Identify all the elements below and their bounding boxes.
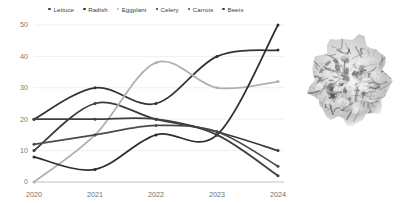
chart-svg: 0102030405020202021202220232024 xyxy=(0,16,292,203)
data-point-marker xyxy=(94,102,97,105)
slide-root: LettuceRadishEggplantCeleryCarrotsBeets … xyxy=(0,0,405,203)
legend-marker-icon xyxy=(156,8,159,11)
legend-item-radish[interactable]: Radish xyxy=(83,6,108,13)
x-axis-tick-label: 2023 xyxy=(209,190,225,199)
legend-label: Celery xyxy=(161,6,179,13)
x-axis-tick-label: 2024 xyxy=(270,190,286,199)
legend-label: Lettuce xyxy=(53,6,74,13)
legend-item-beets[interactable]: Beets xyxy=(222,6,243,13)
data-point-marker xyxy=(277,149,280,152)
data-point-marker xyxy=(277,174,280,177)
legend-marker-icon xyxy=(222,8,225,11)
chart-plot-area: 0102030405020202021202220232024 xyxy=(0,16,292,203)
series-line xyxy=(34,61,278,182)
line-chart: LettuceRadishEggplantCeleryCarrotsBeets … xyxy=(0,0,292,203)
data-point-marker xyxy=(216,130,219,133)
series-carrots xyxy=(33,124,280,168)
lettuce-photo xyxy=(300,22,400,140)
data-point-marker xyxy=(33,181,36,184)
x-axis-tick-label: 2022 xyxy=(148,190,164,199)
y-axis-tick-label: 40 xyxy=(20,52,28,61)
legend-label: Carrots xyxy=(193,6,214,13)
legend-label: Radish xyxy=(88,6,108,13)
y-axis-tick-label: 20 xyxy=(20,115,28,124)
data-point-marker xyxy=(155,133,158,136)
data-point-marker xyxy=(155,102,158,105)
data-point-marker xyxy=(94,86,97,89)
data-point-marker xyxy=(155,118,158,121)
legend-item-carrots[interactable]: Carrots xyxy=(188,6,214,13)
data-point-marker xyxy=(33,149,36,152)
series-line xyxy=(34,125,278,166)
legend-marker-icon xyxy=(83,8,86,11)
photo-panel xyxy=(292,0,405,203)
data-point-marker xyxy=(33,155,36,158)
legend-marker-icon xyxy=(188,8,191,11)
data-point-marker xyxy=(216,133,219,136)
data-point-marker xyxy=(277,165,280,168)
y-axis-tick-label: 30 xyxy=(20,83,28,92)
legend-item-celery[interactable]: Celery xyxy=(156,6,179,13)
x-axis-tick-label: 2021 xyxy=(87,190,103,199)
data-point-marker xyxy=(33,118,36,121)
y-axis-tick-label: 10 xyxy=(20,146,28,155)
legend-marker-icon xyxy=(117,8,120,11)
data-point-marker xyxy=(277,49,280,52)
series-line xyxy=(34,50,278,119)
legend-item-eggplant[interactable]: Eggplant xyxy=(117,6,147,13)
data-point-marker xyxy=(216,86,219,89)
data-point-marker xyxy=(94,168,97,171)
data-point-marker xyxy=(155,61,158,64)
data-point-marker xyxy=(277,80,280,83)
data-point-marker xyxy=(94,133,97,136)
lettuce-photo-graphic xyxy=(300,22,400,140)
data-point-marker xyxy=(94,118,97,121)
legend-label: Beets xyxy=(227,6,243,13)
data-point-marker xyxy=(33,143,36,146)
y-axis-tick-label: 50 xyxy=(20,20,28,29)
legend-label: Eggplant xyxy=(122,6,147,13)
legend-item-lettuce[interactable]: Lettuce xyxy=(48,6,74,13)
chart-legend: LettuceRadishEggplantCeleryCarrotsBeets xyxy=(0,2,292,16)
x-axis-tick-label: 2020 xyxy=(26,190,42,199)
data-point-marker xyxy=(216,55,219,58)
data-point-marker xyxy=(277,24,280,27)
series-radish xyxy=(33,49,280,121)
y-axis-tick-label: 0 xyxy=(24,177,28,186)
data-point-marker xyxy=(155,124,158,127)
legend-marker-icon xyxy=(48,8,51,11)
series-eggplant xyxy=(33,61,280,183)
